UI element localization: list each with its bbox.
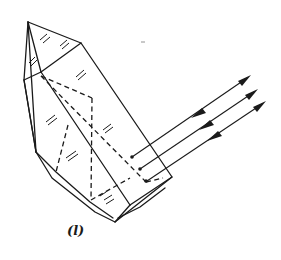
figure-caption: (l) — [67, 223, 84, 238]
light-rays — [130, 75, 266, 183]
glass-hatch-marks — [29, 34, 114, 204]
prism-drawing — [0, 0, 281, 260]
